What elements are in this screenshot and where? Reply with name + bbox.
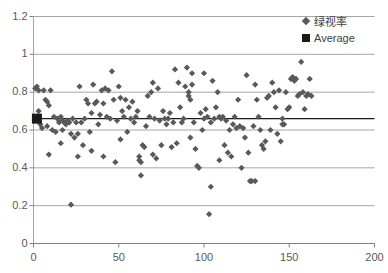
data-point[interactable] xyxy=(150,80,156,86)
data-point[interactable] xyxy=(278,138,284,144)
data-point[interactable] xyxy=(197,110,203,116)
legend-label-series: 绿视率 xyxy=(314,13,347,29)
data-point[interactable] xyxy=(203,106,209,112)
data-point[interactable] xyxy=(298,59,304,65)
data-point[interactable] xyxy=(269,80,275,86)
data-point[interactable] xyxy=(208,184,214,190)
data-point[interactable] xyxy=(155,85,161,91)
data-point[interactable] xyxy=(109,68,115,74)
data-point[interactable] xyxy=(252,82,258,88)
data-point[interactable] xyxy=(88,110,94,116)
data-point[interactable] xyxy=(100,153,106,159)
data-point[interactable] xyxy=(136,153,142,159)
data-point[interactable] xyxy=(170,119,176,125)
data-point[interactable] xyxy=(184,64,190,70)
data-point[interactable] xyxy=(238,165,244,171)
data-point[interactable] xyxy=(213,104,219,110)
data-point[interactable] xyxy=(267,127,273,133)
y-axis-tick-label: 1 xyxy=(2,47,28,59)
data-point[interactable] xyxy=(100,100,106,106)
data-point[interactable] xyxy=(167,110,173,116)
data-point[interactable] xyxy=(111,97,117,103)
data-point[interactable] xyxy=(182,83,188,89)
data-point[interactable] xyxy=(191,119,197,125)
data-point[interactable] xyxy=(177,104,183,110)
data-point[interactable] xyxy=(129,99,135,105)
data-point[interactable] xyxy=(189,82,195,88)
data-point[interactable] xyxy=(187,134,193,140)
data-point[interactable] xyxy=(252,178,258,184)
data-point[interactable] xyxy=(160,108,166,114)
data-point[interactable] xyxy=(44,123,50,129)
data-point[interactable] xyxy=(199,127,205,133)
data-point[interactable] xyxy=(301,106,307,112)
data-point[interactable] xyxy=(58,140,64,146)
data-point[interactable] xyxy=(76,83,82,89)
y-axis-tick-label: 0.8 xyxy=(2,85,28,97)
data-point[interactable] xyxy=(112,159,118,165)
data-point[interactable] xyxy=(307,76,313,82)
data-point[interactable] xyxy=(119,108,125,114)
data-point[interactable] xyxy=(126,104,132,110)
y-axis-tick-label: 1.2 xyxy=(2,10,28,22)
x-axis-tick-label: 0 xyxy=(14,251,54,263)
data-point[interactable] xyxy=(163,121,169,127)
data-point[interactable] xyxy=(46,151,52,157)
data-point[interactable] xyxy=(134,108,140,114)
data-point[interactable] xyxy=(244,72,250,78)
legend-item-series[interactable]: 绿视率 xyxy=(300,12,384,29)
y-axis-tick-label: 0 xyxy=(2,237,28,249)
data-point[interactable] xyxy=(138,172,144,178)
data-point[interactable] xyxy=(117,136,123,142)
data-point[interactable] xyxy=(151,116,157,122)
data-point[interactable] xyxy=(80,142,86,148)
data-point[interactable] xyxy=(283,89,289,95)
data-point[interactable] xyxy=(174,140,180,146)
data-point[interactable] xyxy=(215,89,221,95)
x-axis-tick-label: 100 xyxy=(184,251,224,263)
data-point[interactable] xyxy=(221,142,227,148)
data-point[interactable] xyxy=(274,131,280,137)
scatter-chart: 00.20.40.60.811.2 050100150200 绿视率 Avera… xyxy=(0,0,388,273)
data-point[interactable] xyxy=(90,82,96,88)
data-point[interactable] xyxy=(235,97,241,103)
y-axis-tick-label: 0.2 xyxy=(2,199,28,211)
data-point[interactable] xyxy=(175,80,181,86)
data-point[interactable] xyxy=(189,70,195,76)
data-point[interactable] xyxy=(216,157,222,163)
data-point[interactable] xyxy=(117,95,123,101)
data-point[interactable] xyxy=(88,148,94,154)
data-point[interactable] xyxy=(250,123,256,129)
data-point[interactable] xyxy=(271,89,277,95)
data-point[interactable] xyxy=(116,83,122,89)
square-marker-icon xyxy=(300,31,314,45)
x-axis-tick-label: 200 xyxy=(355,251,388,263)
data-point[interactable] xyxy=(242,134,248,140)
average-marker[interactable] xyxy=(32,114,42,124)
data-point[interactable] xyxy=(97,112,103,118)
data-point[interactable] xyxy=(122,97,128,103)
data-point[interactable] xyxy=(206,211,212,217)
data-point[interactable] xyxy=(59,127,65,133)
data-point[interactable] xyxy=(95,121,101,127)
data-point[interactable] xyxy=(279,116,285,122)
data-point[interactable] xyxy=(68,202,74,208)
data-point[interactable] xyxy=(201,70,207,76)
data-point[interactable] xyxy=(245,150,251,156)
diamond-marker-icon xyxy=(300,14,314,28)
legend-item-average[interactable]: Average xyxy=(300,29,384,46)
data-point[interactable] xyxy=(257,127,263,133)
data-point[interactable] xyxy=(273,104,279,110)
data-point[interactable] xyxy=(36,108,42,114)
data-point[interactable] xyxy=(169,144,175,150)
data-point[interactable] xyxy=(143,123,149,129)
data-point[interactable] xyxy=(158,142,164,148)
data-point[interactable] xyxy=(254,97,260,103)
data-point[interactable] xyxy=(172,66,178,72)
data-point[interactable] xyxy=(209,78,215,84)
data-point[interactable] xyxy=(165,116,171,122)
data-point[interactable] xyxy=(226,127,232,133)
data-point[interactable] xyxy=(75,153,81,159)
data-point[interactable] xyxy=(186,89,192,95)
data-point[interactable] xyxy=(192,146,198,152)
